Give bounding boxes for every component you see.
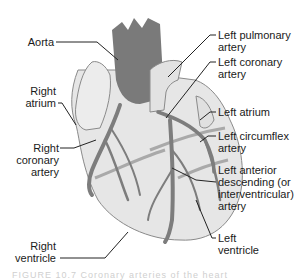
label-left-circumflex-artery-line1: Left circumflex (218, 130, 289, 142)
label-left-ventricle-line1: Left (218, 232, 236, 244)
label-right-coronary-artery-line3: artery (5, 166, 59, 178)
label-left-circumflex-artery-line2: artery (218, 142, 246, 154)
figure-caption: FIGURE 10.7 Coronary arteries of the hea… (12, 270, 228, 280)
label-lad-line1: Left anterior (218, 164, 277, 176)
label-left-coronary-artery-line2: artery (218, 68, 246, 80)
label-right-atrium-line2: atrium (10, 97, 56, 109)
label-lad-line4: artery (218, 200, 246, 212)
label-left-pulmonary-artery-line1: Left pulmonary (218, 29, 291, 41)
label-left-atrium: Left atrium (218, 106, 270, 118)
label-lad-line3: interventricular) (218, 188, 294, 200)
label-left-pulmonary-artery-line2: artery (218, 41, 246, 53)
label-aorta: Aorta (10, 36, 54, 48)
label-right-ventricle-line2: ventricle (5, 252, 56, 264)
label-right-coronary-artery-line2: coronary (5, 154, 59, 166)
label-lad-line2: descending (or (218, 176, 291, 188)
label-left-coronary-artery-line1: Left coronary (218, 56, 282, 68)
label-left-ventricle-line2: ventricle (218, 244, 259, 256)
label-right-ventricle-line1: Right (5, 240, 56, 252)
label-right-atrium-line1: Right (10, 85, 56, 97)
label-right-coronary-artery-line1: Right (5, 142, 59, 154)
